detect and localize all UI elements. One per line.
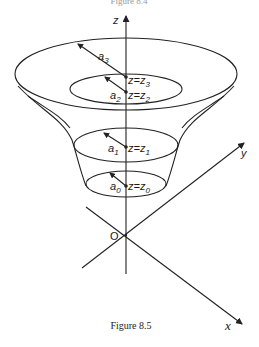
origin-label: O xyxy=(110,230,119,242)
radius-arrows xyxy=(78,44,126,186)
label-z2: z=z2 xyxy=(127,89,150,104)
top-caption-partial: Figure 8.4 xyxy=(111,0,148,6)
label-a0: a0 xyxy=(110,180,121,195)
label-z0: z=z0 xyxy=(127,180,150,195)
z-axis-label: z xyxy=(112,14,119,26)
y-axis xyxy=(82,143,244,268)
label-z1: z=z1 xyxy=(127,142,150,157)
origin-dot xyxy=(125,234,127,236)
y-axis-label: y xyxy=(240,147,248,159)
label-z3: z=z3 xyxy=(127,74,150,89)
x-axis-label: x xyxy=(224,318,231,333)
label-a2: a2 xyxy=(110,89,121,104)
x-axis xyxy=(86,207,242,324)
label-a3: a3 xyxy=(98,50,109,65)
figure-caption: Figure 8.5 xyxy=(110,320,151,331)
label-a1: a1 xyxy=(108,142,119,157)
funnel-surface-diagram: Figure 8.4 a3 z=z3 a2 z=z2 a1 xyxy=(0,0,259,347)
